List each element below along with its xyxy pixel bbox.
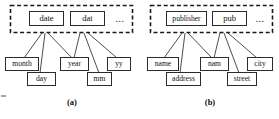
edge-date-month bbox=[24, 33, 42, 58]
edge-date-day bbox=[40, 33, 45, 73]
child-node-name[interactable]: name bbox=[148, 58, 179, 71]
parent-node-dat-label: dat bbox=[82, 13, 93, 23]
child-node-yy[interactable]: yy bbox=[108, 58, 131, 71]
child-node-street-label: street bbox=[234, 74, 251, 83]
figure-svg: date dat ... month day year mm bbox=[0, 0, 279, 119]
child-node-mm[interactable]: mm bbox=[88, 73, 112, 86]
edge-dat-year bbox=[74, 33, 80, 58]
panel-b-caption: (b) bbox=[205, 97, 216, 107]
child-node-year[interactable]: year bbox=[61, 58, 89, 71]
child-node-city[interactable]: city bbox=[248, 58, 273, 71]
edge-publisher-address bbox=[180, 33, 185, 73]
parent-node-publisher-label: publisher bbox=[172, 14, 201, 23]
child-node-nam[interactable]: nam bbox=[201, 58, 229, 71]
edge-publisher-nam bbox=[188, 33, 212, 58]
edge-pub-nam bbox=[214, 33, 220, 58]
child-node-month-label: month bbox=[12, 59, 32, 68]
child-node-year-label: year bbox=[68, 59, 82, 68]
child-node-address[interactable]: address bbox=[167, 73, 201, 86]
parent-node-pub[interactable]: pub bbox=[213, 12, 247, 26]
child-node-month[interactable]: month bbox=[6, 58, 39, 71]
child-node-city-label: city bbox=[254, 59, 266, 68]
group-ellipsis-a: ... bbox=[116, 13, 125, 24]
panel-a: date dat ... month day year mm bbox=[6, 6, 133, 107]
child-node-address-label: address bbox=[172, 74, 195, 83]
panel-b: publisher pub ... name address nam bbox=[148, 6, 273, 107]
child-node-name-label: name bbox=[155, 59, 172, 68]
parent-node-pub-label: pub bbox=[223, 13, 236, 23]
child-node-mm-label: mm bbox=[94, 74, 106, 83]
child-node-day[interactable]: day bbox=[28, 73, 56, 86]
edge-date-year bbox=[48, 33, 72, 58]
child-node-day-label: day bbox=[36, 74, 47, 83]
child-node-street[interactable]: street bbox=[228, 73, 257, 86]
child-node-yy-label: yy bbox=[115, 59, 123, 68]
panel-a-caption: (a) bbox=[67, 97, 77, 107]
parent-node-date[interactable]: date bbox=[30, 12, 64, 26]
group-ellipsis-b: ... bbox=[256, 13, 265, 24]
edge-publisher-name bbox=[164, 33, 182, 58]
child-node-nam-label: nam bbox=[208, 59, 221, 68]
parent-node-date-label: date bbox=[39, 13, 53, 23]
parent-node-dat[interactable]: dat bbox=[71, 12, 105, 26]
parent-node-publisher[interactable]: publisher bbox=[167, 12, 207, 26]
figure-container: date dat ... month day year mm bbox=[0, 0, 279, 119]
